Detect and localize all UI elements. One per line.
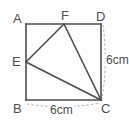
measurement-guides xyxy=(27,25,105,107)
vertex-label-f: F xyxy=(61,9,69,22)
square-outline xyxy=(26,24,101,100)
vertex-label-b: B xyxy=(13,102,22,115)
measurement-label-bottom-side: 6cm xyxy=(49,104,74,116)
vertex-label-e: E xyxy=(12,55,21,68)
geometry-figure: A D B C F E 6cm 6cm xyxy=(0,0,129,128)
vertex-label-c: C xyxy=(101,102,110,115)
segment-EC-line xyxy=(26,62,101,100)
triangle-EFC xyxy=(26,24,101,100)
measurement-label-right-side: 6cm xyxy=(105,54,129,66)
vertex-label-d: D xyxy=(96,10,105,23)
segment-FC-line xyxy=(64,24,101,100)
vertex-label-a: A xyxy=(13,12,22,25)
segment-EF-line xyxy=(26,24,64,62)
